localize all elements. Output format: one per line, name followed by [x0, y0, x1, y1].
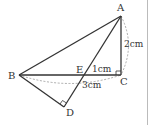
geometry-figure: A B C D E 2cm 1cm 3cm [0, 0, 153, 125]
label-E: E [76, 64, 83, 75]
measure-BE: 3cm [82, 80, 102, 90]
arc-BC [19, 75, 121, 84]
segment-AD [64, 16, 121, 107]
measure-AC: 2cm [124, 39, 144, 49]
label-D: D [66, 107, 74, 118]
label-B: B [8, 70, 15, 81]
label-C: C [120, 76, 128, 87]
segment-BD [19, 75, 64, 107]
label-A: A [116, 2, 125, 13]
measure-EC: 1cm [92, 64, 112, 74]
